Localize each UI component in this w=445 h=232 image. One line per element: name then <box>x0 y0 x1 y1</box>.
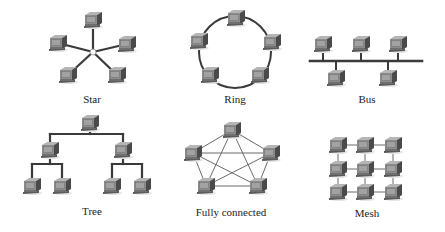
computer-icon <box>223 122 242 139</box>
computer-icon <box>201 67 220 84</box>
computer-icon <box>59 67 78 84</box>
computer-icon <box>184 145 203 162</box>
topology-diagram <box>0 0 445 232</box>
computer-icon <box>389 36 408 53</box>
computer-icon <box>197 178 216 195</box>
computer-icon <box>49 35 68 52</box>
computer-icon <box>53 178 72 195</box>
label-star: Star <box>83 93 101 105</box>
label-tree: Tree <box>82 205 102 217</box>
computer-icon <box>114 142 133 159</box>
computer-icon <box>251 67 270 84</box>
computer-icon <box>84 12 103 29</box>
computer-icon <box>329 161 348 178</box>
computer-icon <box>133 178 152 195</box>
computer-icon <box>108 67 127 84</box>
computer-icon <box>314 36 333 53</box>
computer-icon <box>356 161 375 178</box>
computer-icon <box>41 142 60 159</box>
label-fully-connected: Fully connected <box>196 206 267 218</box>
computer-icon <box>327 70 346 87</box>
computer-icon <box>384 137 403 154</box>
computer-icon <box>249 178 268 195</box>
computer-icon <box>118 36 137 53</box>
computer-icon <box>262 145 281 162</box>
computer-icon <box>384 161 403 178</box>
computer-icon <box>379 70 398 87</box>
computer-icon <box>329 184 348 201</box>
label-bus: Bus <box>358 93 375 105</box>
computer-icon <box>356 137 375 154</box>
label-ring: Ring <box>224 93 245 105</box>
computer-icon <box>190 33 209 50</box>
hub-icon <box>90 49 96 55</box>
computer-icon <box>356 184 375 201</box>
computer-icon <box>103 178 122 195</box>
label-mesh: Mesh <box>355 207 379 219</box>
computer-icon <box>329 137 348 154</box>
computer-icon <box>263 34 282 51</box>
computer-icon <box>384 184 403 201</box>
nodes-layer <box>23 10 408 201</box>
computer-icon <box>81 115 100 132</box>
computer-icon <box>23 178 42 195</box>
computer-icon <box>227 10 246 27</box>
computer-icon <box>352 36 371 53</box>
